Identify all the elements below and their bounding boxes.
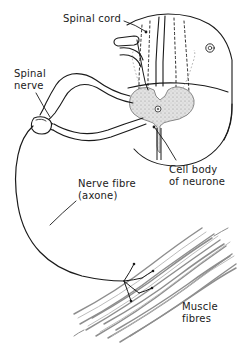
cut-root-stump-lower-2 [120,55,141,67]
dorsal-median-fissure-2 [163,16,165,86]
muscle-fibre-tip [214,228,228,236]
leader-nerve-fibre [50,201,76,225]
muscle-fibre-tip [74,330,84,336]
leader-spinal-nerve [36,93,50,117]
end-plate-dot [130,300,133,303]
leader-spinal-cord-dot [145,31,148,34]
dorsal-root-upper-branch [40,74,130,115]
grey-matter-butterfly [130,50,195,160]
central-canal-dot [157,108,159,110]
end-plate-dot [152,270,155,273]
axon-path [16,126,125,281]
blood-vessel-lumen [208,46,212,50]
dorsal-horn-right [183,50,195,88]
dorsal-median-fissure [156,17,159,86]
muscle-fibre-bundle [74,228,236,342]
label-spinal-cord: Spinal cord [63,13,121,25]
axon [16,126,125,281]
label-muscle-fibres: Muscle fibres [182,301,218,324]
cord-right-flank [224,104,232,140]
label-cell-body-of-neurone: Cell body of neurone [169,164,225,187]
spinal-cord-neurone-diagram: Spinal cord Spinal nerve Cell body of ne… [0,0,242,349]
spinal-nerve-trunk [31,74,146,141]
blood-vessel-circle [206,44,214,52]
ventral-root-upper [54,118,143,134]
nerve-root-stumps [114,36,148,90]
end-plate-dot [133,263,136,266]
end-plate-dot [151,287,154,290]
cut-root-stump-upper [114,36,139,46]
dorsal-tract-dotted-left-2 [148,21,150,92]
label-spinal-nerve: Spinal nerve [14,68,46,91]
terminal-branch [142,271,153,278]
label-nerve-fibre-axone: Nerve fibre (axone) [78,178,136,201]
grey-matter-shape [130,87,195,153]
dorsal-root-lower-branch [47,85,133,121]
dorsal-tract-dotted-right [174,18,176,90]
leader-cell-body-dot [153,126,156,129]
